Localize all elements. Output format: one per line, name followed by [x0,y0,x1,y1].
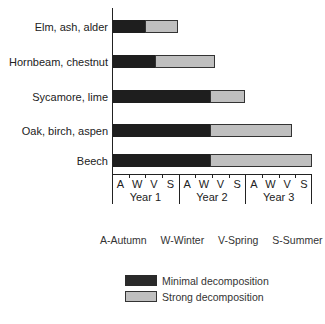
bar-minimal-decomposition [112,20,145,33]
season-tick-label: W [196,178,212,190]
season-tick [262,174,263,178]
season-key-autumn: A-Autumn [100,234,147,246]
legend-swatch-stippled [125,291,157,302]
season-tick-label: V [146,178,162,190]
year-label: Year 1 [112,191,179,203]
year-label: Year 2 [179,191,246,203]
season-key-spring: V-Spring [218,234,258,246]
legend-swatch-dark [125,275,157,286]
season-tick [195,174,196,178]
category-label-sycamore: Sycamore, lime [32,91,108,103]
season-tick [279,174,280,178]
season-tick [129,174,130,178]
bar-strong-decomposition [210,154,312,167]
season-tick-label: S [163,178,179,190]
category-label-beech: Beech [77,155,108,167]
season-tick-label: V [213,178,229,190]
bar-strong-decomposition [145,20,178,33]
season-tick-label: V [279,178,295,190]
season-tick [162,174,163,178]
bar-minimal-decomposition [112,154,210,167]
category-label-elm: Elm, ash, alder [35,21,108,33]
season-key-winter: W-Winter [161,234,205,246]
season-tick-label: A [113,178,129,190]
season-tick-label: W [263,178,279,190]
season-key-summer: S-Summer [272,234,322,246]
y-axis [112,8,113,174]
bar-minimal-decomposition [112,55,155,68]
season-tick-label: A [246,178,262,190]
bar-minimal-decomposition [112,90,210,103]
category-label-hornbeam: Hornbeam, chestnut [9,56,108,68]
season-tick [145,174,146,178]
category-label-oak: Oak, birch, aspen [22,125,108,137]
legend-label-minimal: Minimal decomposition [162,275,269,287]
season-tick-label: W [129,178,145,190]
season-tick [295,174,296,178]
season-key: A-Autumn W-Winter V-Spring S-Summer [100,234,325,246]
bar-strong-decomposition [155,55,215,68]
season-tick-label: A [179,178,195,190]
legend-label-strong: Strong decomposition [162,291,264,303]
season-tick [212,174,213,178]
bar-minimal-decomposition [112,124,210,137]
legend-item-minimal: Minimal decomposition [125,274,269,287]
bar-strong-decomposition [210,124,292,137]
legend-item-strong: Strong decomposition [125,290,264,303]
season-tick-label: S [296,178,312,190]
bar-strong-decomposition [210,90,245,103]
season-tick-label: S [229,178,245,190]
year-label: Year 3 [245,191,312,203]
season-tick [229,174,230,178]
